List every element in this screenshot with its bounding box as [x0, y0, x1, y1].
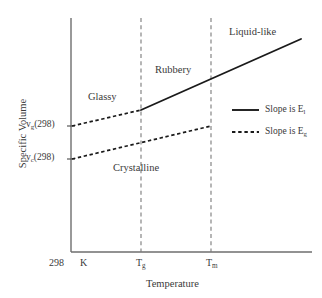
- specific-volume-vs-temperature-figure: Specific Volume vg(298) vc(298) 298 K Tg…: [0, 0, 322, 298]
- annotation-rubbery: Rubbery: [155, 65, 191, 76]
- y-axis-title: Specific Volume: [17, 74, 28, 194]
- x-tick-label-tg: Tg: [136, 258, 146, 270]
- annotation-crystalline: Crystalline: [113, 163, 159, 174]
- x-tick-tg-subscript: g: [142, 262, 146, 270]
- annotation-liquid-like: Liquid-like: [229, 27, 276, 38]
- y-tick-vg-suffix: (298): [34, 119, 55, 129]
- legend-dashed-label: Slope is E: [265, 126, 304, 136]
- y-tick-vc-suffix: (298): [34, 152, 55, 162]
- legend-dashed-subscript: g: [304, 130, 307, 137]
- y-tick-label-vg: vg(298): [26, 120, 55, 131]
- x-axis-title: Temperature: [146, 279, 199, 290]
- y-tick-label-vc: vc(298): [26, 153, 54, 164]
- legend-solid-subscript: l: [304, 108, 306, 115]
- annotation-glassy: Glassy: [88, 92, 117, 103]
- x-tick-label-298: 298: [49, 258, 64, 268]
- legend-entry-solid: Slope is El: [265, 105, 305, 116]
- x-tick-label-kelvin: K: [80, 258, 87, 268]
- glassy-branch-line: [72, 110, 141, 126]
- legend-entry-dashed: Slope is Eg: [265, 127, 307, 138]
- x-tick-tm-subscript: m: [212, 262, 218, 270]
- legend-solid-label: Slope is E: [265, 104, 304, 114]
- x-tick-label-tm: Tm: [206, 258, 218, 270]
- plot-canvas: [0, 0, 322, 298]
